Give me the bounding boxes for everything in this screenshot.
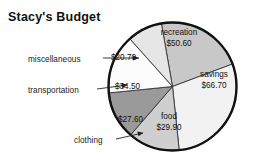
slice-label-savings: savings $66.70 [191,69,237,91]
slice-label-food: food $29.90 [152,111,186,133]
callout-label-transportation: transportation [28,86,79,95]
slice-value-clothing: $27.60 [118,115,143,124]
slice-name-food: food [152,111,186,122]
slice-value-transportation: $34.50 [115,82,140,91]
pie-chart-figure: Stacy's Budget miscellaneous transportat… [0,0,256,163]
callout-label-clothing: clothing [74,136,103,145]
slice-value-miscellaneous: $20.70 [111,53,136,62]
callout-label-miscellaneous: miscellaneous [28,55,81,64]
slice-value-savings: $66.70 [191,80,237,91]
slice-value-food: $29.90 [152,122,186,133]
slice-name-savings: savings [191,69,237,80]
slice-label-recreation: recreation $50.60 [150,27,208,49]
slice-name-recreation: recreation [150,27,208,38]
slice-value-recreation: $50.60 [150,38,208,49]
